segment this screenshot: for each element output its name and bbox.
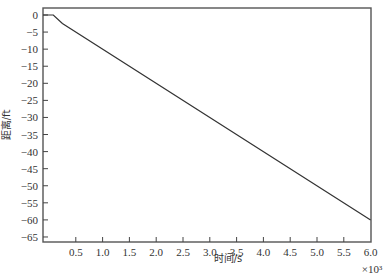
y-axis-title: 距离/ft (0, 110, 12, 141)
y-tick-label: −25 (21, 94, 39, 106)
y-axis-ticks: 0−5−10−15−20−25−30−35−40−45−50−55−60−65 (21, 9, 48, 243)
x-tick-label: 2.5 (176, 246, 190, 258)
series-line-distance (43, 15, 371, 220)
x-tick-label: 4.0 (257, 246, 271, 258)
y-tick-label: −35 (21, 129, 39, 141)
y-tick-label: −40 (21, 146, 39, 158)
y-tick-label: −30 (21, 111, 39, 123)
data-series (43, 15, 371, 220)
y-tick-label: −50 (21, 180, 39, 192)
y-tick-label: −15 (21, 60, 39, 72)
x-tick-label: 5.5 (337, 246, 351, 258)
x-tick-label: 1.5 (123, 246, 137, 258)
x-axis-exponent: ×10³ (362, 263, 383, 275)
y-tick-label: −20 (21, 77, 39, 89)
y-tick-label: −5 (26, 26, 38, 38)
y-tick-label: −45 (21, 163, 39, 175)
y-tick-label: −65 (21, 231, 39, 243)
y-tick-label: 0 (33, 9, 39, 21)
x-tick-label: 2.0 (149, 246, 163, 258)
x-axis-title: 时间/s (214, 252, 243, 264)
x-tick-label: 1.0 (96, 246, 110, 258)
x-tick-label: 6.0 (364, 246, 378, 258)
y-tick-label: −10 (21, 43, 39, 55)
plot-area: 0−5−10−15−20−25−30−35−40−45−50−55−60−65 … (21, 8, 378, 258)
x-tick-label: 4.5 (283, 246, 297, 258)
line-chart: 0−5−10−15−20−25−30−35−40−45−50−55−60−65 … (0, 0, 388, 278)
x-tick-label: 5.0 (310, 246, 324, 258)
y-tick-label: −60 (21, 214, 39, 226)
x-tick-label: 0.5 (69, 246, 83, 258)
y-tick-label: −55 (21, 197, 39, 209)
